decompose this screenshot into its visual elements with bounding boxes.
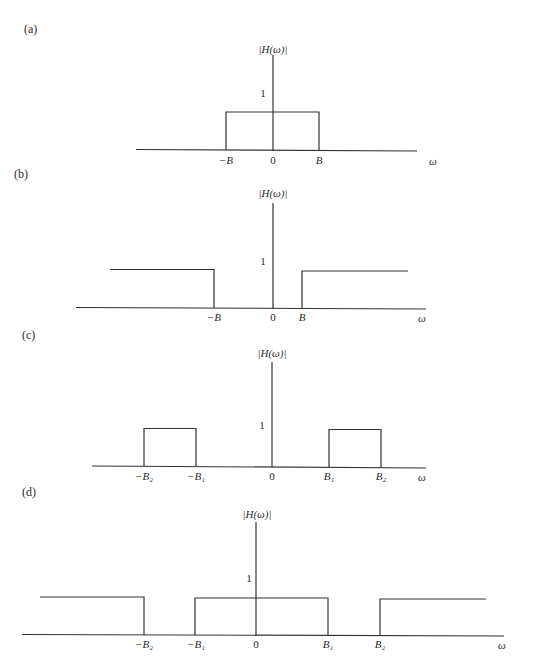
panel-a-ylabel: |H(ω)| [258,43,287,56]
panel-b-xlabel: ω [418,312,426,324]
panel-d-response-middle [195,598,328,636]
filter-diagram: |H(ω)| 1 −B 0 B ω |H(ω)| 1 −B 0 B ω |H(ω… [0,0,551,669]
panel-a-tick-b: B [316,154,323,166]
panel-c-xlabel: ω [418,471,426,483]
panel-b-response-left [110,270,214,309]
panel-c-response-left [144,429,196,467]
panel-c-tick-b1: B₁ [324,470,335,482]
panel-a-xlabel: ω [429,155,437,167]
panel-d-tick-zero: 0 [253,638,259,650]
panel-d-tick-neg-b1: −B₁ [187,638,205,650]
panel-c-tick-b2: B₂ [376,470,387,482]
panel-b-tick-one: 1 [260,255,266,267]
panel-d-tick-b2: B₂ [375,638,386,650]
panel-d-tick-b1: B₁ [323,638,334,650]
panel-a-tick-one: 1 [260,87,266,99]
panel-c-response-right [329,430,381,468]
panel-c-tick-neg-b1: −B₁ [187,470,205,482]
panel-d-tick-one: 1 [246,572,252,584]
panel-d-x-axis [22,635,504,637]
panel-b-x-axis [76,308,426,310]
panel-c-tick-neg-b2: −B₂ [135,470,153,482]
panel-b-plot [76,203,426,309]
panel-b-tick-b: B [299,311,306,323]
panel-c-tick-zero: 0 [269,470,275,482]
panel-d-ylabel: |H(ω)| [242,508,271,521]
panel-d-response-right [380,599,486,636]
panel-a-tick-neg-b: −B [219,154,233,166]
panel-b-ylabel: |H(ω)| [258,187,287,200]
panel-a-tick-zero: 0 [270,154,276,166]
panel-c-x-axis [92,466,426,468]
panel-c-plot [92,362,426,468]
panel-b-tick-neg-b: −B [207,311,221,323]
panel-d-xlabel: ω [498,639,506,651]
panel-d-tick-neg-b2: −B₂ [135,638,153,650]
panel-d-plot [22,522,504,636]
panel-b-response-right [302,271,408,309]
panel-c-ylabel: |H(ω)| [257,347,286,360]
panel-b-tick-zero: 0 [270,311,276,323]
panel-a-x-axis [136,150,417,152]
panel-c-tick-one: 1 [259,419,265,431]
panel-d-response-left [40,597,144,635]
panel-a-plot [136,55,417,151]
